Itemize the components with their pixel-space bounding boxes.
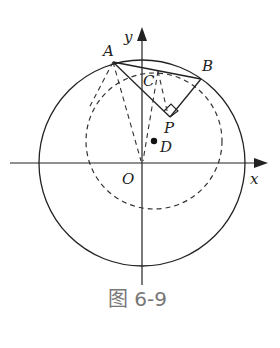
- label-O: O: [122, 170, 134, 188]
- label-A: A: [101, 42, 114, 60]
- label-D: D: [159, 138, 172, 156]
- y-axis-arrow-icon: [137, 27, 147, 41]
- figure-caption: 图 6-9: [108, 287, 167, 311]
- point-D: [151, 138, 157, 144]
- axes: [10, 36, 258, 285]
- label-x: x: [250, 170, 259, 188]
- label-B: B: [201, 57, 213, 75]
- dashed-A-O: [113, 62, 141, 161]
- label-C: C: [143, 72, 155, 90]
- dashed-C-P: [158, 71, 168, 115]
- label-P: P: [163, 119, 175, 137]
- label-y: y: [123, 28, 133, 46]
- geometry-figure: y x O A B C P D 图 6-9: [0, 0, 280, 348]
- x-axis-arrow-icon: [254, 158, 268, 168]
- segment-BP: [170, 79, 201, 117]
